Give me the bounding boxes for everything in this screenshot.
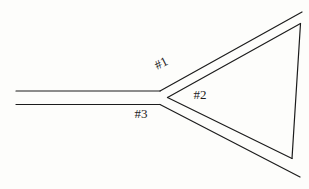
diagram-canvas: #1#2#3 (0, 0, 309, 189)
branch-label-3: #3 (135, 106, 148, 121)
branch-label-1: #1 (152, 53, 170, 72)
lower-branch-inner-line (168, 98, 293, 159)
upper-branch-inner-line (168, 24, 301, 98)
junction-triangle-figure: #1#2#3 (0, 0, 309, 189)
upper-branch-outer-line (160, 12, 302, 91)
right-side-line (292, 24, 301, 159)
branch-label-2: #2 (194, 87, 207, 102)
lower-branch-outer-line (160, 105, 300, 178)
